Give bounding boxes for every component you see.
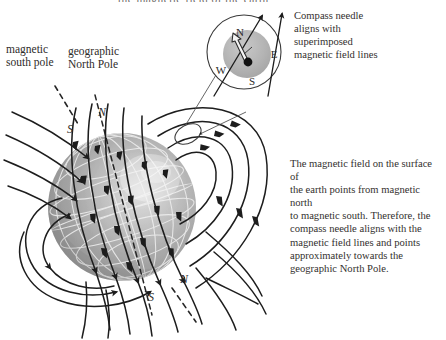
compass-caption: Compass needle aligns with superimposed …: [294, 9, 444, 61]
compass-caption-line4: magnetic field lines: [294, 48, 444, 61]
magnifier-region-marker: [171, 119, 204, 148]
field-arrowheads-right: [200, 120, 259, 226]
compass-south-label: S: [249, 75, 255, 87]
compass-caption-line2: aligns with: [294, 22, 444, 35]
compass-dial: [223, 30, 271, 78]
geographic-north-pole-line1: geographic: [68, 45, 168, 58]
body-line6: approximately towards the: [290, 249, 442, 262]
compass-caption-line3: superimposed: [294, 35, 444, 48]
body-line1: The magnetic field on the surface of: [290, 157, 442, 183]
compass-west-label: W: [216, 64, 227, 76]
compass-pivot: [244, 58, 253, 67]
compass-inset: N E S W: [207, 14, 282, 96]
compass-caption-line1: Compass needle: [294, 9, 444, 22]
pole-label-S-top: S: [67, 122, 73, 137]
body-line7: geographic North Pole.: [290, 262, 442, 275]
geographic-north-pole-line2: North Pole: [68, 58, 168, 71]
pole-label-N-top: N: [98, 105, 106, 120]
compass-east-label: E: [271, 48, 278, 60]
geographic-north-pole-label: geographic North Pole: [68, 45, 168, 71]
figure-canvas: the magnetic field of the earth: [0, 0, 446, 340]
body-line2: the earth points from magnetic north: [290, 183, 442, 209]
pole-label-N-bottom: N: [180, 272, 188, 287]
body-line3: to magnetic south. Therefore, the: [290, 209, 442, 222]
body-line4: compass needle aligns with the: [290, 222, 442, 235]
pole-label-S-bottom: S: [148, 290, 154, 305]
body-line5: magnetic field lines and points: [290, 236, 442, 249]
explanatory-paragraph: The magnetic field on the surface of the…: [290, 157, 442, 275]
